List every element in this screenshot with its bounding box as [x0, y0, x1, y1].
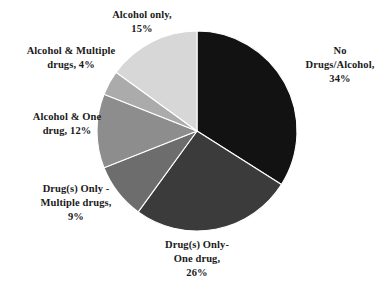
pie-label-drugs-only-multiple-drugs: Drug(s) Only - Multiple drugs, 9% — [14, 182, 138, 224]
pie-label-alcohol-only: Alcohol only, 15% — [82, 8, 202, 36]
pie-label-alcohol-and-multiple-drugs: Alcohol & Multiple drugs, 4% — [4, 44, 138, 72]
pie-label-no-drugs-alcohol: No Drugs/Alcohol, 34% — [296, 44, 384, 86]
pie-label-drugs-only-one-drug: Drug(s) Only- One drug, 26% — [136, 238, 258, 280]
pie-chart-figure: No Drugs/Alcohol, 34% Drug(s) Only- One … — [0, 0, 388, 288]
pie-label-alcohol-and-one-drug: Alcohol & One drug, 12% — [8, 110, 126, 138]
